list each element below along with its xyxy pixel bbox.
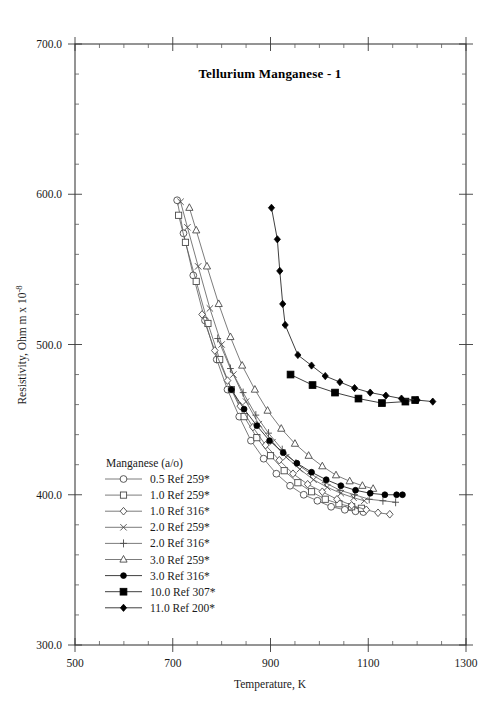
marker-open-square [308,489,314,495]
marker-open-diamond [386,510,393,518]
marker-open-square [322,496,328,502]
marker-filled-circle [294,460,300,466]
marker-filled-square [309,382,316,389]
marker-filled-circle [400,492,406,498]
marker-cross-x [207,305,213,311]
marker-open-square [176,212,182,218]
marker-filled-square [355,395,362,402]
series-polyline [177,200,363,512]
marker-filled-square [287,371,294,378]
marker-open-triangle [215,300,222,307]
legend-item-5[interactable]: 2.0 Ref 316* [105,537,210,549]
legend-item-label: 10.0 Ref 307* [150,586,216,598]
x-tick-label: 500 [66,657,84,669]
legend-item-label: 1.0 Ref 316* [150,505,210,517]
marker-plus [366,495,373,503]
legend-item-label: 3.0 Ref 259* [150,554,210,566]
legend-item-label: 11.0 Ref 200* [150,602,215,614]
marker-filled-circle [367,490,373,496]
marker-filled-circle [309,469,315,475]
y-tick-label: 600.0 [36,188,62,200]
marker-open-triangle [120,556,127,563]
marker-filled-diamond [383,392,389,399]
x-tick-label: 1100 [357,657,380,669]
marker-filled-circle [241,406,247,412]
marker-cross-x [184,224,190,230]
marker-filled-circle [394,492,400,498]
series-1 [174,197,367,516]
plot-area-border [75,44,466,645]
x-tick-label: 900 [262,657,280,669]
marker-open-triangle [186,204,193,211]
marker-open-circle [300,491,307,498]
legend-item-7[interactable]: 3.0 Ref 316* [105,570,210,582]
marker-filled-circle [229,387,235,393]
marker-filled-diamond [308,362,314,369]
marker-filled-circle [338,483,344,489]
axis-tick-labels: 50070090011001300300.0400.0500.0600.0700… [36,38,478,669]
marker-open-diamond [120,507,127,515]
marker-open-square [193,278,199,284]
legend-item-label: 0.5 Ref 259* [150,473,210,485]
series-polyline [271,208,432,402]
legend-item-1[interactable]: 0.5 Ref 259* [105,473,210,485]
legend-item-2[interactable]: 1.0 Ref 259* [105,489,210,501]
marker-plus [392,498,399,506]
marker-open-square [120,492,126,498]
marker-filled-circle [382,492,388,498]
x-tick-label: 700 [164,657,182,669]
marker-plus [214,334,221,342]
marker-plus [120,539,127,547]
marker-filled-circle [353,487,359,493]
marker-open-diamond [211,347,218,355]
marker-filled-square [379,400,386,407]
legend-item-6[interactable]: 3.0 Ref 259* [105,554,210,566]
marker-open-circle [328,503,335,510]
series-polyline [231,390,402,495]
legend-item-9[interactable]: 11.0 Ref 200* [105,602,215,614]
marker-filled-diamond [295,351,301,358]
data-series-group [174,197,436,518]
marker-filled-diamond [268,204,274,211]
y-axis-title: Resistivity, Ohm m x 10-8 [14,285,29,404]
marker-filled-circle [267,438,273,444]
chart-legend: Manganese (a/o)0.5 Ref 259*1.0 Ref 259*1… [105,457,216,614]
marker-filled-circle [280,450,286,456]
marker-open-circle [287,482,294,489]
marker-open-square [281,468,287,474]
marker-open-circle [260,455,267,462]
marker-open-square [295,480,301,486]
marker-open-triangle [251,386,258,393]
legend-item-8[interactable]: 10.0 Ref 307* [105,586,216,598]
marker-filled-diamond [430,398,436,405]
y-tick-label: 700.0 [36,38,62,50]
marker-filled-circle [121,573,127,579]
marker-filled-circle [323,477,329,483]
legend-item-3[interactable]: 1.0 Ref 316* [105,505,210,517]
legend-item-label: 3.0 Ref 316* [150,570,210,582]
marker-plus [227,365,234,373]
marker-filled-diamond [337,378,343,385]
marker-open-triangle [332,471,339,478]
marker-filled-diamond [322,372,328,379]
y-tick-label: 500.0 [36,339,62,351]
marker-open-circle [120,476,127,483]
marker-open-diamond [375,509,382,517]
legend-item-label: 1.0 Ref 259* [150,489,210,501]
legend-title: Manganese (a/o) [106,457,183,470]
legend-item-label: 2.0 Ref 259* [150,521,210,533]
y-tick-label: 300.0 [36,639,62,651]
marker-open-diamond [319,488,326,496]
marker-filled-diamond [351,384,357,391]
x-axis-title: Temperature, K [234,678,307,691]
resistivity-chart: 50070090011001300300.0400.0500.0600.0700… [0,0,491,705]
legend-item-4[interactable]: 2.0 Ref 259* [105,521,210,533]
plot-frame [75,44,466,645]
marker-filled-diamond [277,267,283,274]
y-axis-exponent: -8 [14,285,24,292]
marker-open-circle [273,470,280,477]
chart-title: Tellurium Manganese - 1 [198,66,341,81]
marker-open-square [182,239,188,245]
legend-item-label: 2.0 Ref 316* [150,537,210,549]
x-tick-label: 1300 [455,657,478,669]
